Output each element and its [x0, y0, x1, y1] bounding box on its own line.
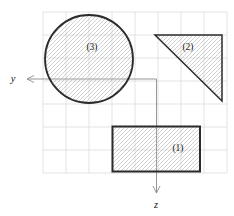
z-axis-label: z: [153, 199, 158, 210]
shape-label-triangle: (2): [182, 42, 193, 53]
shape-label-circle: (3): [86, 42, 97, 53]
diagram-svg: yz(3)(2)(1): [0, 0, 234, 216]
shape-rect: [113, 127, 201, 172]
y-axis-label: y: [10, 73, 16, 84]
shape-label-rect: (1): [172, 143, 183, 154]
diagram-page: yz(3)(2)(1): [0, 0, 234, 216]
shape-circle: [45, 15, 133, 103]
